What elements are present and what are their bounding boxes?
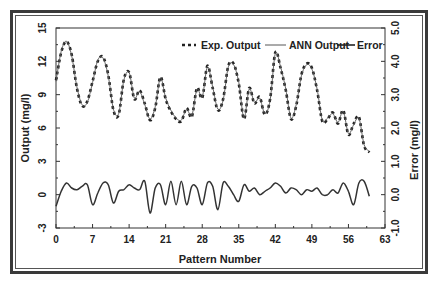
y-tick-label: 3 [37,158,48,164]
y-right-tick-label: 4.0 [390,54,401,68]
legend-error-label: Error [357,39,383,51]
chart-svg: 071421283542495663 -303691215 -1.00.01.0… [0,0,438,282]
x-axis-title: Pattern Number [179,253,262,265]
legend-exp-output-label: Exp. Output [201,39,261,51]
x-tick-label: 35 [233,234,245,245]
y-tick-label: 6 [37,125,48,131]
x-tick-label: 28 [197,234,209,245]
y-tick-label: 12 [37,55,48,67]
y-tick-label: 0 [37,191,48,197]
y-right-tick-label: 0.0 [390,187,401,201]
x-tick-label: 56 [343,234,355,245]
x-tick-label: 14 [124,234,136,245]
y-right-tick-label: 5.0 [390,21,401,35]
x-tick-label: 42 [270,234,282,245]
y-right-tick-label: 1.0 [390,154,401,168]
y-right-tick-label: -1.0 [390,219,401,237]
y-axis-title: Output (mg/l) [19,93,31,162]
y-axis-right-title: Error (mg/l) [408,120,420,180]
y-tick-label: 9 [37,91,48,97]
x-tick-label: 0 [53,234,59,245]
y-tick-label: 15 [37,22,48,34]
x-tick-label: 21 [160,234,172,245]
x-tick-label: 49 [306,234,318,245]
y-right-tick-label: 3.0 [390,87,401,101]
y-tick-label: -3 [37,223,48,232]
y-right-tick-label: 2.0 [390,121,401,135]
x-tick-label: 7 [90,234,96,245]
